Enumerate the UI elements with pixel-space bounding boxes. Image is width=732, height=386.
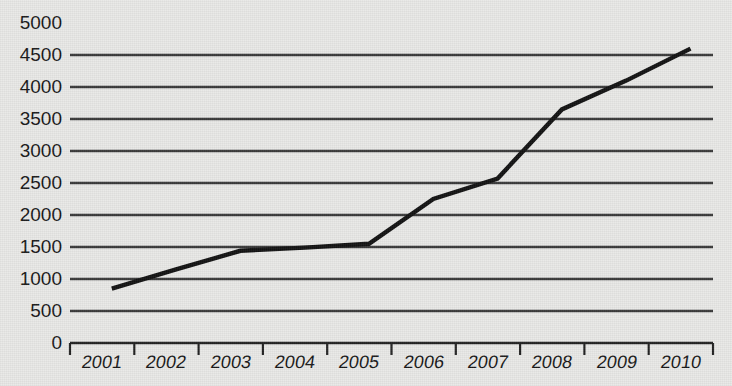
x-tick-label: 2009 (595, 352, 638, 373)
plot-area (0, 0, 732, 386)
x-tick-label: 2003 (209, 352, 252, 373)
line-chart: 5000 4500 4000 3500 3000 2500 2000 1500 … (0, 0, 732, 386)
x-tick-label: 2006 (402, 352, 445, 373)
x-tick-label: 2010 (659, 352, 702, 373)
x-tick-label: 2001 (81, 352, 124, 373)
x-tick-label: 2005 (338, 352, 381, 373)
x-tick-label: 2008 (531, 352, 574, 373)
x-tick-label: 2004 (273, 352, 316, 373)
x-tick-label: 2007 (466, 352, 509, 373)
data-line-series-1 (112, 49, 691, 289)
x-tick-label: 2002 (145, 352, 188, 373)
